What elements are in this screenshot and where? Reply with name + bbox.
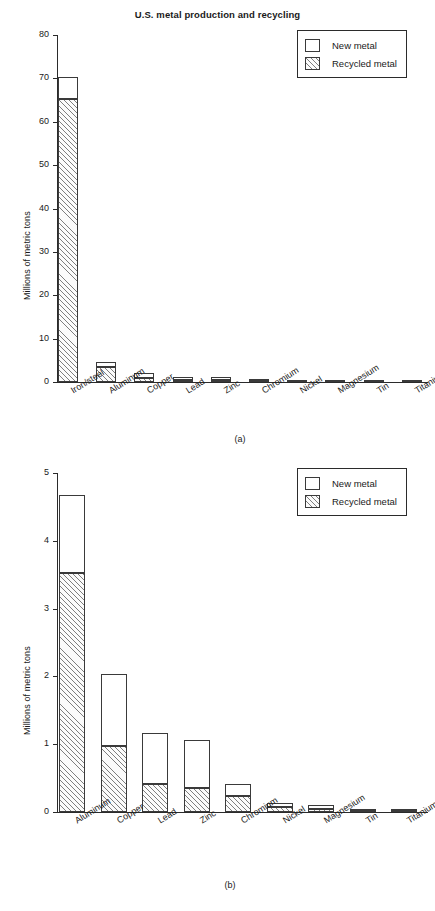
bar-segment-recycled-metal — [211, 380, 231, 382]
bar-segment-recycled-metal — [59, 573, 85, 812]
legend-label-new-metal: New metal — [332, 478, 377, 489]
legend-row-new-metal: New metal — [305, 36, 397, 54]
plot-area-b — [0, 473, 435, 812]
legend-label-new-metal: New metal — [332, 40, 377, 51]
bar-chromium[interactable] — [225, 784, 251, 812]
bar-segment-new-metal — [184, 740, 210, 788]
bar-lead[interactable] — [142, 733, 168, 812]
bar-segment-recycled-metal — [58, 99, 78, 382]
bar-segment-new-metal — [225, 784, 251, 796]
bar-aluminum[interactable] — [59, 495, 85, 812]
bar-segment-recycled-metal — [184, 788, 210, 812]
bar-zinc[interactable] — [211, 377, 231, 382]
y-tick-mark — [53, 812, 57, 813]
legend-label-recycled-metal: Recycled metal — [332, 58, 397, 69]
bar-zinc[interactable] — [184, 740, 210, 812]
bar-segment-recycled-metal — [225, 796, 251, 812]
bar-segment-new-metal — [59, 495, 85, 573]
bar-tin[interactable] — [364, 381, 384, 382]
legend-swatch-new-metal — [305, 477, 320, 490]
legend-swatch-recycled-metal — [305, 495, 320, 508]
legend-b: New metal Recycled metal — [297, 468, 407, 516]
y-tick-mark — [53, 382, 57, 383]
bar-segment-recycled-metal — [402, 380, 422, 382]
bar-segment-recycled-metal — [173, 380, 193, 382]
bar-segment-new-metal — [58, 77, 78, 99]
subcaption-a: (a) — [210, 434, 270, 444]
bar-segment-new-metal — [101, 674, 127, 746]
legend-row-recycled-metal: Recycled metal — [305, 54, 397, 72]
bar-copper[interactable] — [101, 674, 127, 812]
plot-area-a — [0, 35, 435, 382]
legend-swatch-recycled-metal — [305, 57, 320, 70]
bar-segment-new-metal — [142, 733, 168, 783]
legend-row-new-metal: New metal — [305, 474, 397, 492]
legend-label-recycled-metal: Recycled metal — [332, 496, 397, 507]
figure-root: U.S. metal production and recycling Mill… — [0, 0, 435, 911]
legend-swatch-new-metal — [305, 39, 320, 52]
bar-segment-recycled-metal — [364, 380, 384, 382]
legend-a: New metal Recycled metal — [297, 30, 407, 78]
bar-segment-recycled-metal — [142, 784, 168, 812]
bar-iron-steel[interactable] — [58, 77, 78, 382]
legend-row-recycled-metal: Recycled metal — [305, 492, 397, 510]
page-title: U.S. metal production and recycling — [0, 9, 435, 20]
subcaption-b: (b) — [200, 880, 260, 890]
